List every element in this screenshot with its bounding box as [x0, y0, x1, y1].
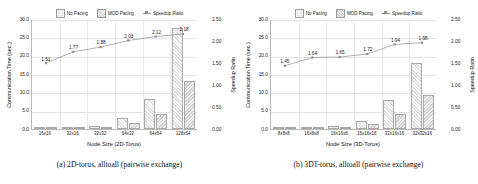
y2-axis-tick: 1.00	[451, 84, 460, 89]
legend-item-line-marker: Speedup Ratio	[143, 9, 183, 17]
bar-group	[170, 20, 198, 129]
data-label: 1.88	[97, 40, 106, 45]
bar-group	[87, 20, 115, 129]
data-label: 1.77	[69, 45, 78, 50]
data-label: 1.64	[308, 51, 317, 56]
y2-axis-tick: 1.50	[212, 62, 221, 67]
bar-mod-pacing[interactable]	[368, 124, 379, 129]
chart-panel-a: No PacingMOD PacingSpeedup RatioCommunic…	[0, 0, 239, 184]
y2-axis-ticks: 0.000.501.001.502.002.50	[211, 20, 228, 130]
bar-no-pacing[interactable]	[383, 100, 394, 129]
bar-mod-pacing[interactable]	[129, 123, 140, 129]
bar-no-pacing[interactable]	[172, 28, 183, 129]
bar-mod-pacing[interactable]	[46, 127, 57, 129]
x-axis-tick: 16x16x8	[325, 131, 353, 141]
bar-group	[142, 20, 170, 129]
x-axis-tick: 16x16	[31, 131, 59, 141]
legend-swatch-icon	[336, 9, 345, 18]
bar-mod-pacing[interactable]	[74, 127, 85, 129]
x-axis-title: Node Size (3D-Torus)	[270, 141, 436, 147]
y2-axis-tick: 1.00	[212, 84, 221, 89]
bar-groups	[271, 20, 436, 129]
bar-mod-pacing[interactable]	[156, 114, 167, 129]
y-axis-title-text: Communication Time (sec.)	[245, 42, 251, 108]
x-axis-tick: 64x64	[142, 131, 170, 141]
y2-axis-title-text: Speedup Ratio	[230, 57, 236, 93]
bar-no-pacing[interactable]	[356, 121, 367, 129]
bar-group	[32, 20, 60, 129]
figure-caption: (a) 2D-torus, alltoall (pairwise exchang…	[0, 160, 239, 169]
bar-group	[60, 20, 88, 129]
legend-label: Speedup Ratio	[153, 11, 183, 16]
bar-no-pacing[interactable]	[34, 127, 45, 129]
bar-group	[381, 20, 409, 129]
x-axis-tick: 64x32	[114, 131, 142, 141]
bar-mod-pacing[interactable]	[101, 127, 112, 129]
data-label: 1.45	[280, 59, 289, 64]
legend-item-line-marker: Speedup Ratio	[382, 9, 422, 17]
y-axis-tick: 25.0	[20, 36, 29, 41]
plot-area: 1.451.641.651.721.941.98	[270, 20, 436, 130]
bar-no-pacing[interactable]	[411, 63, 422, 129]
bar-no-pacing[interactable]	[273, 127, 284, 129]
x-axis-tick: 32x16	[59, 131, 87, 141]
y-axis-tick: 5.0	[22, 109, 29, 114]
y-axis-ticks: 0.05.010.015.020.025.030.0	[252, 20, 269, 130]
data-label: 1.98	[419, 36, 428, 41]
x-axis-tick: 32x16x16	[381, 131, 409, 141]
x-axis-ticks: 16x1632x1632x3264x3264x64128x64	[31, 131, 197, 141]
data-label: 1.51	[41, 57, 50, 62]
speedup-line-marker-icon	[143, 9, 151, 17]
data-label: 1.94	[391, 38, 400, 43]
data-label: 1.72	[363, 47, 372, 52]
plot-area: 1.511.771.882.032.122.18	[31, 20, 197, 130]
bar-no-pacing[interactable]	[328, 126, 339, 129]
bar-group	[299, 20, 327, 129]
legend-item-bar-modpacing: MOD Pacing	[336, 9, 373, 18]
y2-axis-tick: 0.50	[212, 106, 221, 111]
legend-label: MOD Pacing	[108, 11, 134, 16]
x-axis-tick: 16x16x16	[353, 131, 381, 141]
bar-no-pacing[interactable]	[89, 126, 100, 129]
bar-mod-pacing[interactable]	[423, 95, 434, 129]
y-axis-tick: 15.0	[259, 73, 268, 78]
bar-mod-pacing[interactable]	[340, 127, 351, 129]
legend-item-bar-modpacing: MOD Pacing	[97, 9, 134, 18]
y-axis-tick: 0.0	[261, 128, 268, 133]
legend-label: No Pacing	[67, 11, 88, 16]
y-axis-tick: 10.0	[259, 91, 268, 96]
y-axis-tick: 20.0	[20, 54, 29, 59]
bar-no-pacing[interactable]	[62, 127, 73, 129]
bar-no-pacing[interactable]	[117, 118, 128, 129]
data-label: 2.12	[152, 30, 161, 35]
bar-no-pacing[interactable]	[301, 127, 312, 129]
chart-panel-b: No PacingMOD PacingSpeedup RatioCommunic…	[239, 0, 478, 184]
y2-axis-tick: 0.50	[451, 106, 460, 111]
y-axis-tick: 5.0	[261, 109, 268, 114]
data-label: 2.18	[180, 27, 189, 32]
legend-label: MOD Pacing	[347, 11, 373, 16]
x-axis-tick: 8x8x8	[270, 131, 298, 141]
bar-mod-pacing[interactable]	[184, 81, 195, 129]
chart-legend: No PacingMOD PacingSpeedup Ratio	[239, 7, 478, 19]
chart-legend: No PacingMOD PacingSpeedup Ratio	[0, 7, 239, 19]
bar-mod-pacing[interactable]	[395, 114, 406, 129]
bar-group	[271, 20, 299, 129]
x-axis-tick: 32x32x16	[408, 131, 436, 141]
y2-axis-ticks: 0.000.501.001.502.002.50	[450, 20, 467, 130]
y2-axis-title: Speedup Ratio	[467, 20, 477, 130]
y-axis-tick: 0.0	[22, 128, 29, 133]
x-axis-tick: 16x8x8	[298, 131, 326, 141]
y2-axis-tick: 2.00	[451, 40, 460, 45]
x-axis-title: Node Size (2D-Torus)	[31, 141, 197, 147]
data-label: 1.65	[336, 50, 345, 55]
y2-axis-tick: 0.00	[451, 128, 460, 133]
legend-swatch-icon	[56, 9, 65, 18]
data-label: 2.03	[124, 34, 133, 39]
bar-groups	[32, 20, 197, 129]
bar-no-pacing[interactable]	[144, 99, 155, 129]
bar-mod-pacing[interactable]	[285, 127, 296, 129]
x-axis-tick: 128x64	[169, 131, 197, 141]
y-axis-tick: 10.0	[20, 91, 29, 96]
bar-mod-pacing[interactable]	[313, 127, 324, 129]
